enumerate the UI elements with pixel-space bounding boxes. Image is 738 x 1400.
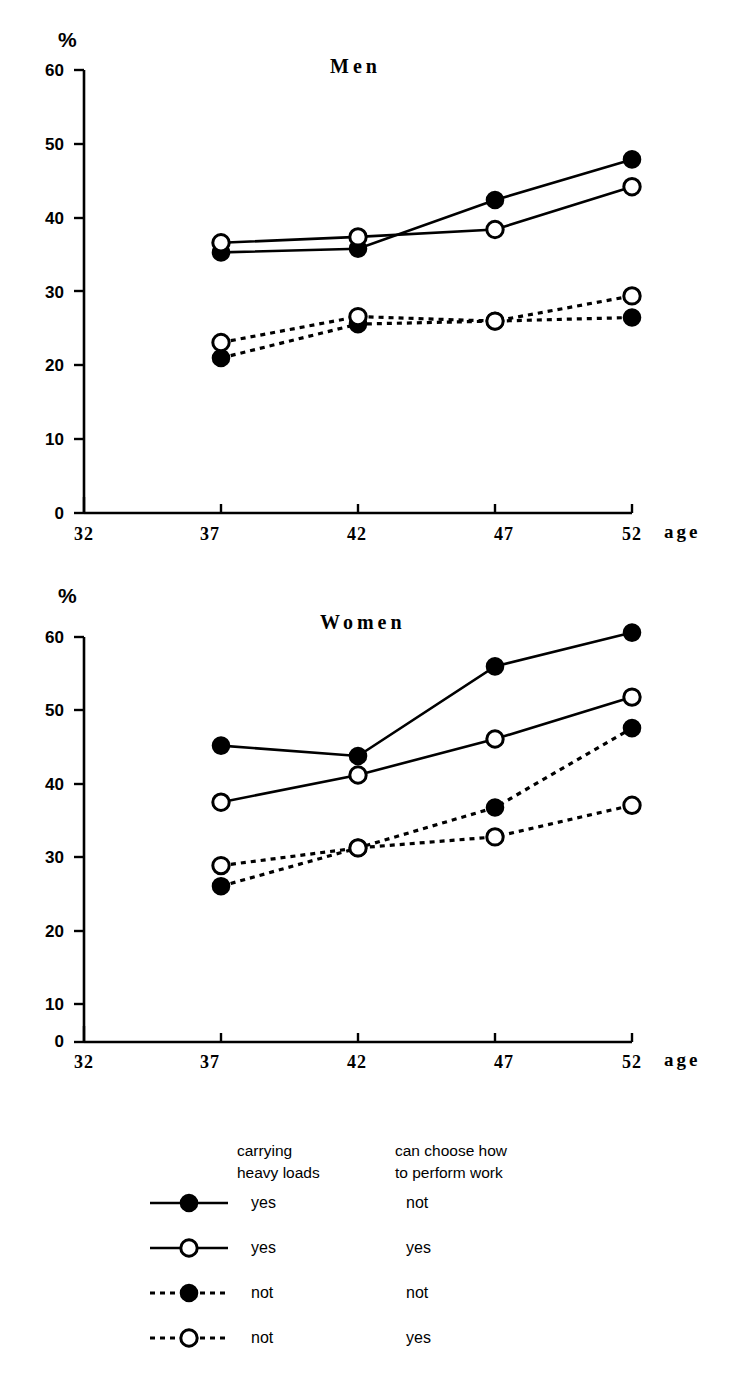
legend-row-2-carrying: yes xyxy=(251,1239,276,1257)
data-point-open xyxy=(350,308,366,324)
y-tick-label: 50 xyxy=(30,701,64,721)
chart-panel-women: % Women 60 50 40 30 20 10 0 32 37 42 47 … xyxy=(0,560,738,1100)
x-tick-label: 42 xyxy=(335,1052,379,1073)
data-point-filled xyxy=(213,350,229,366)
y-tick-label: 50 xyxy=(30,135,64,155)
y-tick-label: 60 xyxy=(30,628,64,648)
series-solid-filled-men xyxy=(213,151,640,260)
chart-title-women: Women xyxy=(320,611,406,634)
x-tick-label: 42 xyxy=(335,524,379,545)
data-point-open xyxy=(487,829,503,845)
x-tick-label: 37 xyxy=(188,524,232,545)
series-dotted-open-women xyxy=(213,797,640,874)
legend-key-dotted-filled xyxy=(150,1285,228,1301)
data-point-filled xyxy=(213,737,229,753)
y-tick-label: 30 xyxy=(30,848,64,868)
data-point-open xyxy=(624,797,640,813)
data-point-open xyxy=(624,689,640,705)
y-tick-label: 20 xyxy=(30,356,64,376)
data-point-open xyxy=(213,235,229,251)
data-point-open xyxy=(350,229,366,245)
data-point-open xyxy=(213,794,229,810)
data-point-filled xyxy=(624,624,640,640)
data-point-filled xyxy=(213,878,229,894)
legend-row-4-carrying: not xyxy=(251,1329,273,1347)
series-dotted-filled-men xyxy=(213,309,640,366)
data-point-filled xyxy=(350,748,366,764)
chart-plot-area-men xyxy=(0,0,738,560)
data-point-filled xyxy=(624,151,640,167)
y-tick-label: 40 xyxy=(30,209,64,229)
legend-row-2-can-choose: yes xyxy=(406,1239,431,1257)
chart-panel-men: % Men 60 50 40 30 20 10 0 32 37 42 47 52… xyxy=(0,0,738,560)
y-tick-label: 0 xyxy=(30,1032,64,1052)
data-point-filled xyxy=(487,192,503,208)
legend-key-solid-filled xyxy=(150,1195,228,1211)
data-point-open xyxy=(350,767,366,783)
x-tick-label: 47 xyxy=(482,1052,526,1073)
data-point-open xyxy=(624,179,640,195)
x-tick-label: 52 xyxy=(610,1052,654,1073)
data-point-open xyxy=(213,334,229,350)
data-point-filled xyxy=(624,720,640,736)
axis-lines xyxy=(84,70,632,513)
legend-key-solid-open xyxy=(150,1240,228,1256)
data-point-filled xyxy=(487,658,503,674)
y-axis-unit-label: % xyxy=(58,28,77,52)
x-tick-label: 32 xyxy=(62,1052,106,1073)
chart-legend: carrying heavy loads can choose how to p… xyxy=(0,1105,738,1400)
y-tick-label: 40 xyxy=(30,775,64,795)
data-point-open xyxy=(624,288,640,304)
y-axis-unit-label: % xyxy=(58,584,77,608)
x-tick-label: 47 xyxy=(482,524,526,545)
legend-key-symbols xyxy=(0,1105,738,1400)
y-tick-label: 30 xyxy=(30,283,64,303)
series-dotted-open-men xyxy=(213,288,640,351)
legend-row-1-carrying: yes xyxy=(251,1194,276,1212)
data-point-open xyxy=(350,840,366,856)
data-point-open xyxy=(487,221,503,237)
axis-ticks xyxy=(74,637,632,1042)
x-tick-label: 52 xyxy=(610,524,654,545)
axis-ticks xyxy=(74,70,632,513)
legend-row-4-can-choose: yes xyxy=(406,1329,431,1347)
y-tick-label: 10 xyxy=(30,430,64,450)
data-point-open xyxy=(213,857,229,873)
chart-plot-area-women xyxy=(0,560,738,1100)
series-dotted-filled-women xyxy=(213,720,640,895)
data-point-filled xyxy=(487,799,503,815)
chart-title-men: Men xyxy=(330,55,381,78)
y-tick-label: 60 xyxy=(30,61,64,81)
legend-row-3-carrying: not xyxy=(251,1284,273,1302)
legend-row-3-can-choose: not xyxy=(406,1284,428,1302)
data-point-open xyxy=(487,731,503,747)
legend-row-1-can-choose: not xyxy=(406,1194,428,1212)
data-point-filled xyxy=(624,309,640,325)
x-axis-name: age xyxy=(664,1049,700,1071)
y-tick-label: 20 xyxy=(30,922,64,942)
series-solid-filled-women xyxy=(213,624,640,764)
x-tick-label: 32 xyxy=(62,524,106,545)
y-tick-label: 0 xyxy=(30,504,64,524)
series-solid-open-men xyxy=(213,179,640,252)
x-tick-label: 37 xyxy=(188,1052,232,1073)
legend-key-dotted-open xyxy=(150,1330,228,1346)
y-tick-label: 10 xyxy=(30,995,64,1015)
data-point-open xyxy=(487,313,503,329)
x-axis-name: age xyxy=(664,521,700,543)
